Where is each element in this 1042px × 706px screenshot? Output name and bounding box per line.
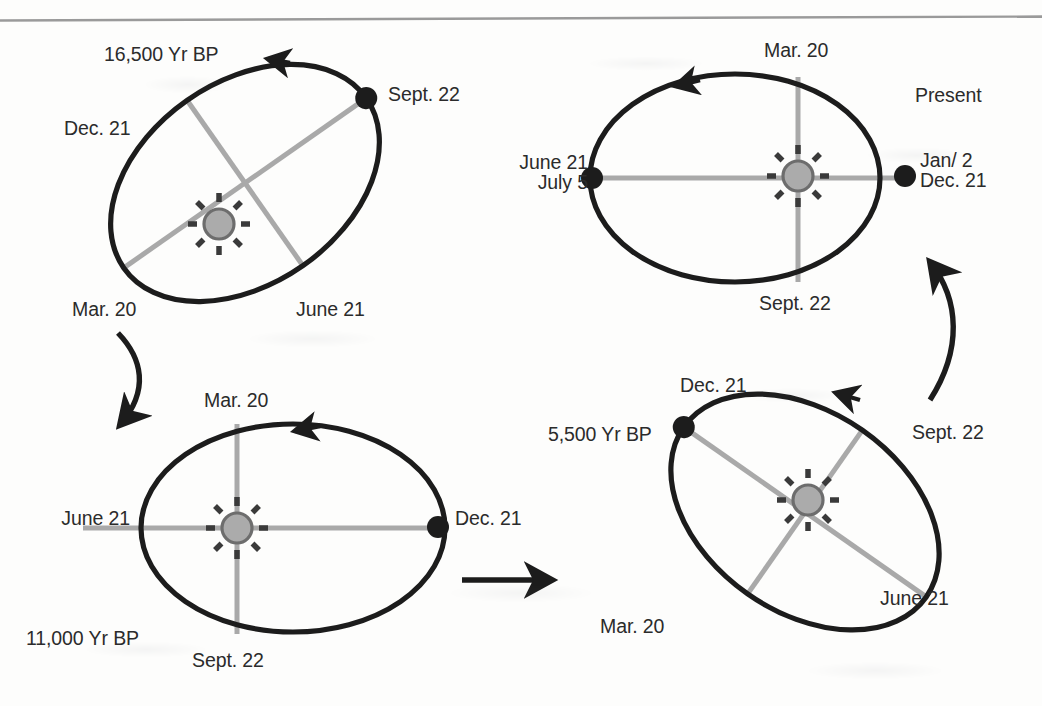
orbit-direction-arrow-5500: [836, 393, 860, 400]
label-mar20-5500: Mar. 20: [600, 616, 664, 637]
orbit-direction-arrow-16500: [268, 59, 290, 63]
label-sept22-16500: Sept. 22: [388, 84, 460, 105]
marker-dec21-11000: [427, 516, 449, 538]
label-dec21-16500: Dec. 21: [64, 118, 131, 139]
panel-present-orbit-group: [581, 74, 916, 282]
label-mar20-present: Mar. 20: [764, 40, 828, 61]
label-june21-11000: June 21: [24, 508, 130, 529]
label-june21-16500: June 21: [296, 299, 365, 320]
label-dec21-5500: Dec. 21: [680, 375, 747, 396]
panel-5500-orbit-group: [617, 339, 983, 679]
label-july5-present: July 5: [478, 172, 588, 193]
label-mar20-16500: Mar. 20: [72, 299, 136, 320]
label-mar20-11000: Mar. 20: [204, 390, 268, 411]
epoch-label-11000: 11,000 Yr BP: [26, 628, 139, 649]
label-dec21-present: Dec. 21: [920, 170, 987, 191]
label-dec21-11000: Dec. 21: [455, 508, 522, 529]
flow-arrow-5500-to-present: [930, 262, 953, 400]
panel-11000-orbit-group: [83, 424, 449, 634]
orbit-direction-arrow-11000: [295, 426, 320, 431]
marker-jan2-dec21-present: [894, 165, 916, 187]
label-sept22-5500: Sept. 22: [912, 422, 984, 443]
label-jan2-present: Jan/ 2: [920, 150, 973, 171]
epoch-label-present: Present: [915, 85, 982, 106]
precession-diagram-figure: 16,500 Yr BP Sept. 22 Dec. 21 Mar. 20 Ju…: [0, 0, 1042, 706]
label-sept22-present: Sept. 22: [759, 293, 831, 314]
label-june21-present: June 21: [478, 152, 588, 173]
top-divider-rule: [0, 17, 1042, 21]
epoch-label-16500: 16,500 Yr BP: [104, 44, 218, 65]
epoch-label-5500: 5,500 Yr BP: [548, 424, 652, 445]
flow-arrow-16500-to-11000: [118, 333, 139, 425]
label-sept22-11000: Sept. 22: [192, 650, 264, 671]
label-june21-5500: June 21: [880, 588, 949, 609]
